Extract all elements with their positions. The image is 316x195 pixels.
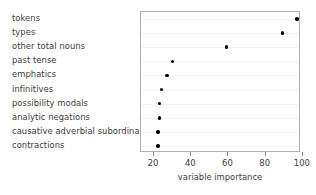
x-axis: variable importance 20406080100 (140, 152, 300, 192)
data-point (165, 74, 169, 78)
data-point (295, 17, 299, 21)
data-point (156, 144, 160, 148)
category-label: possibility modals (12, 96, 134, 110)
x-axis-tick-mark (153, 152, 154, 156)
data-point (225, 45, 229, 49)
data-point (281, 31, 285, 35)
x-axis-tick-mark (302, 152, 303, 156)
category-label: other total nouns (12, 39, 134, 53)
gridline (141, 61, 299, 62)
x-axis-tick-label: 100 (294, 158, 310, 168)
category-label: emphatics (12, 67, 134, 81)
category-axis-labels: tokenstypesother total nounspast tenseem… (0, 11, 136, 152)
gridline (141, 33, 299, 34)
data-point (160, 88, 164, 92)
category-label: types (12, 25, 134, 39)
x-axis-tick-mark (265, 152, 266, 156)
category-label: infinitives (12, 82, 134, 96)
x-axis-tick-label: 40 (185, 158, 196, 168)
plot-panel (140, 11, 300, 152)
gridline (141, 47, 299, 48)
data-point (156, 130, 160, 134)
category-label: contractions (12, 138, 134, 152)
category-label: analytic negations (12, 110, 134, 124)
variable-importance-dotplot: tokenstypesother total nounspast tenseem… (0, 0, 316, 195)
category-label: tokens (12, 11, 134, 25)
x-axis-tick-mark (190, 152, 191, 156)
category-label: causative adverbial subordinators (12, 124, 134, 138)
category-label: past tense (12, 53, 134, 67)
x-axis-tick-label: 20 (148, 158, 159, 168)
gridline (141, 90, 299, 91)
data-point (158, 102, 162, 106)
x-axis-tick-mark (227, 152, 228, 156)
gridline (141, 19, 299, 20)
gridline (141, 118, 299, 119)
gridline (141, 146, 299, 147)
data-point (158, 116, 162, 120)
data-point (171, 60, 175, 64)
x-axis-tick-label: 60 (222, 158, 233, 168)
x-axis-title: variable importance (140, 172, 300, 182)
gridline (141, 132, 299, 133)
x-axis-tick-label: 80 (259, 158, 270, 168)
gridline (141, 104, 299, 105)
